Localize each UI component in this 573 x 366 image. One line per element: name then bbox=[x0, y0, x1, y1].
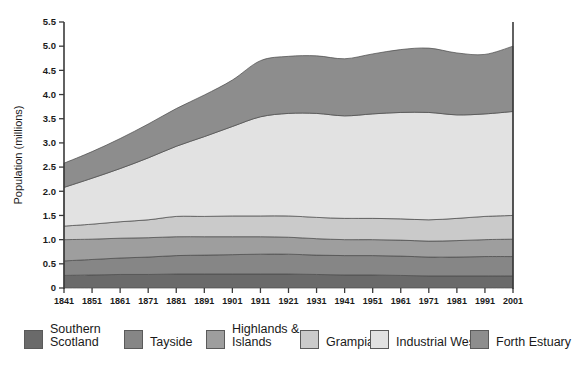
x-tick-label: 1971 bbox=[419, 296, 439, 306]
y-tick-label: 3.0 bbox=[43, 137, 56, 148]
chart-legend: Southern ScotlandTaysideHighlands & Isla… bbox=[0, 314, 573, 366]
legend-item-forth-estuary[interactable]: Forth Estuary bbox=[470, 330, 571, 349]
y-tick-label: 1.0 bbox=[43, 234, 56, 245]
x-tick-label: 1901 bbox=[222, 296, 242, 306]
legend-label: Highlands & Islands bbox=[232, 323, 299, 349]
y-tick-label: 4.5 bbox=[43, 65, 57, 76]
x-tick-label: 1951 bbox=[363, 296, 383, 306]
legend-item-grampian[interactable]: Grampian bbox=[300, 330, 381, 349]
legend-swatch-icon bbox=[300, 330, 319, 349]
legend-item-highlands-islands[interactable]: Highlands & Islands bbox=[206, 323, 299, 349]
legend-label: Forth Estuary bbox=[496, 336, 571, 349]
legend-swatch-icon bbox=[124, 330, 143, 349]
x-tick-label: 1881 bbox=[166, 296, 186, 306]
stacked-area-chart: 00.51.01.52.02.53.03.54.04.55.05.5184118… bbox=[0, 0, 573, 366]
x-tick-label: 1861 bbox=[110, 296, 130, 306]
legend-item-tayside[interactable]: Tayside bbox=[124, 330, 192, 349]
x-tick-label: 1911 bbox=[251, 296, 271, 306]
area-band-industrial-west bbox=[64, 111, 513, 226]
legend-swatch-icon bbox=[206, 330, 225, 349]
x-tick-label: 2001 bbox=[503, 296, 523, 306]
legend-swatch-icon bbox=[24, 330, 43, 349]
x-tick-label: 1891 bbox=[194, 296, 214, 306]
x-tick-label: 1921 bbox=[278, 296, 298, 306]
x-tick-label: 1841 bbox=[54, 296, 74, 306]
x-tick-label: 1851 bbox=[82, 296, 102, 306]
y-tick-label: 5.0 bbox=[43, 40, 56, 51]
legend-swatch-icon bbox=[370, 330, 389, 349]
legend-label: Industrial West bbox=[396, 336, 478, 349]
y-tick-label: 2.0 bbox=[43, 186, 56, 197]
y-axis-title: Population (millions) bbox=[12, 105, 24, 204]
y-tick-label: 0 bbox=[51, 282, 56, 293]
y-tick-label: 0.5 bbox=[43, 258, 57, 269]
legend-label: Tayside bbox=[150, 336, 192, 349]
x-tick-label: 1871 bbox=[138, 296, 158, 306]
chart-figure: 00.51.01.52.02.53.03.54.04.55.05.5184118… bbox=[0, 0, 573, 366]
legend-swatch-icon bbox=[470, 330, 489, 349]
y-tick-label: 5.5 bbox=[43, 16, 57, 27]
x-tick-label: 1941 bbox=[335, 296, 355, 306]
x-tick-label: 1981 bbox=[447, 296, 467, 306]
legend-label: Southern Scotland bbox=[50, 323, 101, 349]
x-tick-label: 1991 bbox=[475, 296, 495, 306]
y-tick-label: 4.0 bbox=[43, 89, 56, 100]
legend-item-industrial-west[interactable]: Industrial West bbox=[370, 330, 478, 349]
y-tick-label: 1.5 bbox=[43, 210, 57, 221]
x-tick-label: 1931 bbox=[307, 296, 327, 306]
y-tick-label: 3.5 bbox=[43, 113, 57, 124]
x-tick-label: 1961 bbox=[391, 296, 411, 306]
legend-item-southern-scotland[interactable]: Southern Scotland bbox=[24, 323, 101, 349]
y-tick-label: 2.5 bbox=[43, 161, 57, 172]
